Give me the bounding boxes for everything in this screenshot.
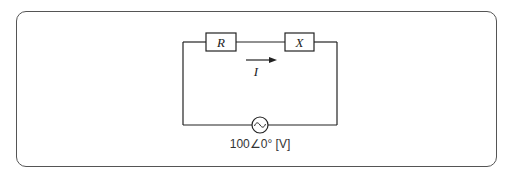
- resistor: R: [206, 33, 236, 51]
- reactance-label: X: [295, 35, 305, 50]
- arrowhead-icon: [269, 57, 277, 63]
- reactance: X: [285, 33, 314, 51]
- ac-source: 100∠0° [V]: [230, 117, 291, 151]
- current-indicator: I: [246, 57, 277, 79]
- current-label: I: [253, 64, 259, 79]
- source-label: 100∠0° [V]: [230, 137, 291, 151]
- resistor-label: R: [216, 35, 225, 50]
- circuit-diagram: R X I 100∠0° [V]: [0, 0, 513, 178]
